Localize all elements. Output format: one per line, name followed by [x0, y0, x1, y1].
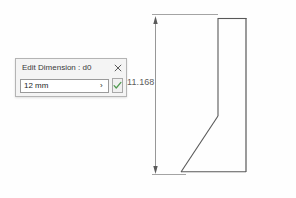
checkmark-icon — [113, 81, 122, 90]
cad-drawing — [0, 0, 296, 198]
sketch-profile — [181, 18, 247, 172]
cad-canvas[interactable]: 11.168 Edit Dimension : d0 › — [0, 0, 296, 198]
dimension-input-wrap[interactable]: › — [20, 79, 109, 93]
dialog-title: Edit Dimension : d0 — [22, 63, 91, 73]
accept-button[interactable] — [112, 78, 123, 93]
dialog-body: › — [16, 76, 126, 96]
vertical-dimension[interactable] — [152, 15, 218, 175]
dimension-value-input[interactable] — [21, 80, 108, 92]
chevron-right-icon[interactable]: › — [96, 80, 107, 92]
close-icon[interactable] — [111, 61, 124, 74]
dialog-titlebar[interactable]: Edit Dimension : d0 — [16, 59, 126, 76]
dimension-value-label[interactable]: 11.168 — [126, 77, 155, 88]
edit-dimension-dialog[interactable]: Edit Dimension : d0 › — [15, 58, 127, 97]
